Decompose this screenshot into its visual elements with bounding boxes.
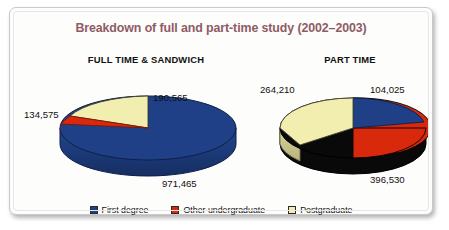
legend-item-first-degree: First degree: [90, 205, 149, 215]
panel-heading-full-time: FULL TIME & SANDWICH: [58, 54, 234, 65]
legend-label-postgraduate: Postgraduate: [300, 205, 352, 215]
legend-item-postgraduate: Postgraduate: [288, 205, 352, 215]
label-full-time-first-degree: 971,465: [162, 178, 197, 189]
pie-chart-full-time: [58, 94, 238, 178]
legend-swatch-first-degree: [90, 206, 98, 214]
legend-swatch-postgraduate: [288, 206, 296, 214]
pie-right-svg: [278, 96, 428, 178]
chart-legend: First degree Other undergraduate Postgra…: [10, 205, 432, 215]
label-part-time-first-degree: 104,025: [370, 84, 405, 95]
pie-left-svg: [58, 94, 238, 178]
label-full-time-postgraduate: 190,565: [153, 92, 188, 103]
label-full-time-other-undergraduate: 134,575: [24, 109, 59, 120]
page-title: Breakdown of full and part-time study (2…: [10, 21, 432, 35]
legend-item-other-undergraduate: Other undergraduate: [171, 205, 265, 215]
legend-swatch-other-undergraduate: [171, 206, 179, 214]
pie-chart-part-time: [278, 96, 428, 178]
label-part-time-postgraduate: 264,210: [260, 84, 295, 95]
label-part-time-other-undergraduate: 396,530: [370, 174, 405, 185]
legend-label-other-undergraduate: Other undergraduate: [183, 205, 265, 215]
chart-frame: Breakdown of full and part-time study (2…: [9, 7, 433, 215]
legend-label-first-degree: First degree: [102, 205, 149, 215]
panel-heading-part-time: PART TIME: [286, 54, 414, 65]
